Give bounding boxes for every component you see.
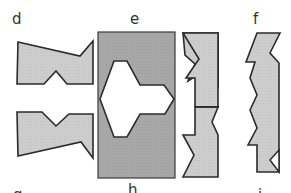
piece-d-top [17, 41, 93, 84]
shapes-diagram [0, 0, 291, 193]
piece-d-bottom [17, 112, 93, 158]
piece-f [246, 33, 280, 172]
piece-e-right-lower [183, 107, 218, 177]
